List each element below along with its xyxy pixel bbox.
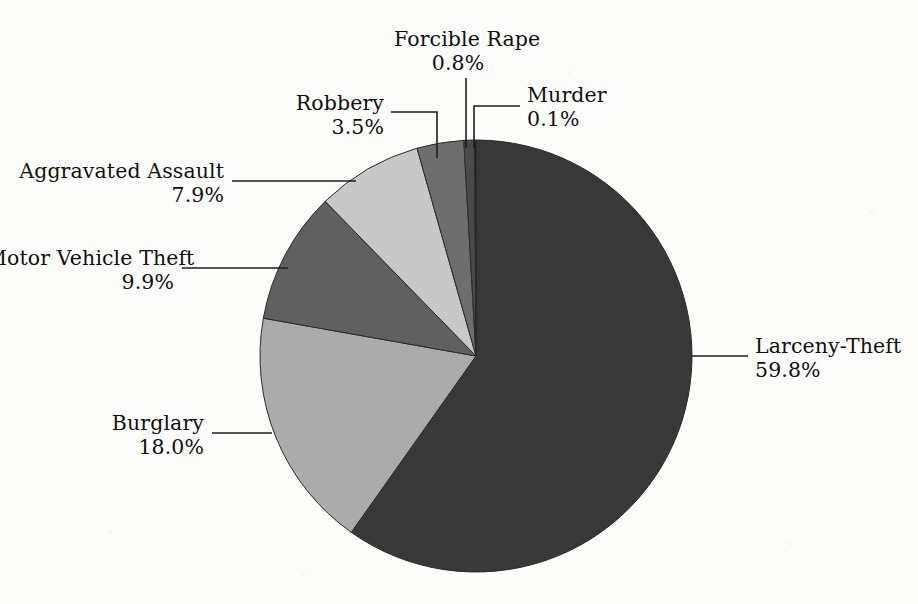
slice-label-murder-name: Murder (527, 84, 607, 108)
slice-label-burglary-pct: 18.0% (66, 436, 204, 460)
slice-label-burglary-name: Burglary (66, 412, 204, 436)
slice-label-motor-vehicle-theft: Motor Vehicle Theft 9.9% (0, 247, 174, 295)
slice-label-motor-vehicle-theft-name: Motor Vehicle Theft (0, 247, 174, 271)
pie-chart-figure (0, 0, 918, 604)
slice-label-forcible-rape-name: Forcible Rape (394, 28, 522, 52)
slice-label-forcible-rape: Forcible Rape 0.8% (394, 28, 522, 76)
slice-label-robbery-pct: 3.5% (268, 116, 384, 140)
slice-label-motor-vehicle-theft-pct: 9.9% (0, 271, 174, 295)
slice-label-burglary: Burglary 18.0% (66, 412, 204, 460)
chart-page: Forcible Rape 0.8% Murder 0.1% Robbery 3… (0, 0, 918, 604)
slice-label-robbery: Robbery 3.5% (268, 92, 384, 140)
slice-label-larceny-theft-name: Larceny-Theft (755, 335, 901, 359)
slice-label-larceny-theft: Larceny-Theft 59.8% (755, 335, 901, 383)
slice-label-aggravated-assault-name: Aggravated Assault (18, 160, 224, 184)
slice-label-aggravated-assault-pct: 7.9% (18, 184, 224, 208)
slice-label-murder: Murder 0.1% (527, 84, 607, 132)
slice-label-robbery-name: Robbery (268, 92, 384, 116)
slice-label-aggravated-assault: Aggravated Assault 7.9% (18, 160, 224, 208)
slice-label-larceny-theft-pct: 59.8% (755, 359, 901, 383)
slice-label-forcible-rape-pct: 0.8% (394, 52, 522, 76)
pie-slice-group (260, 140, 692, 572)
slice-label-murder-pct: 0.1% (527, 108, 607, 132)
